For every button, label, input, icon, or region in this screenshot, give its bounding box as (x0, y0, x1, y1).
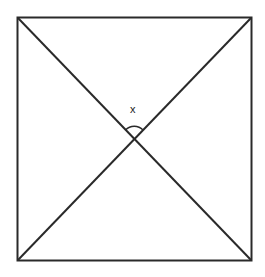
angle-arc (126, 126, 144, 130)
square-diagram (0, 0, 265, 277)
angle-label: x (130, 103, 136, 115)
